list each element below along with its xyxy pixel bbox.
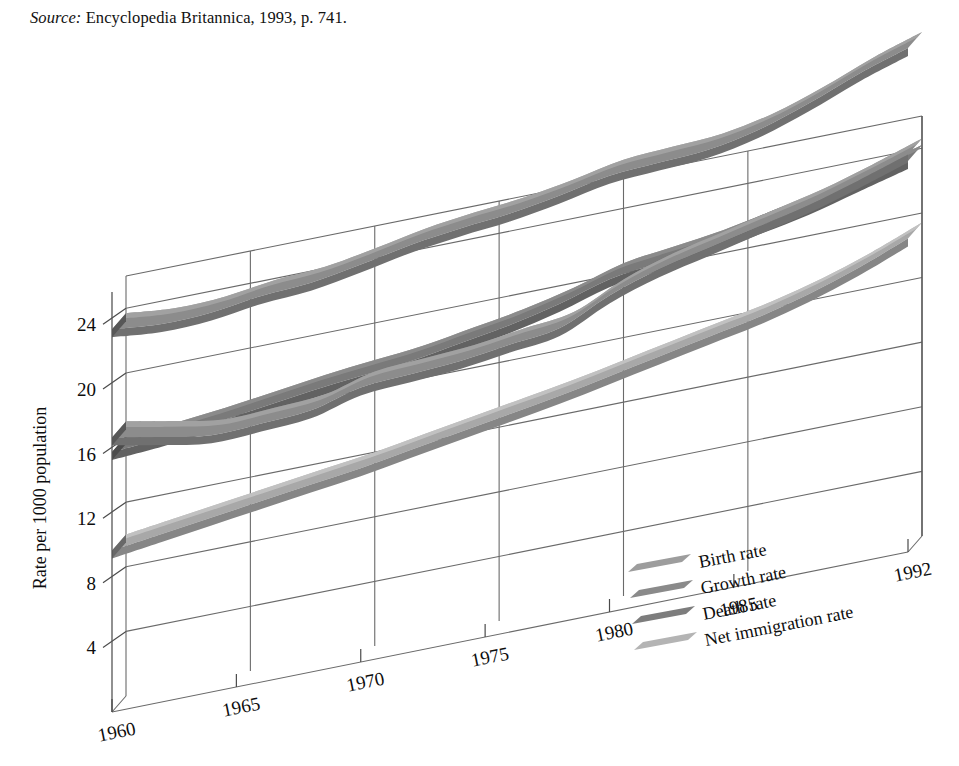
y-tick xyxy=(103,631,126,647)
legend-item: Birth rate xyxy=(628,539,768,572)
x-tick-label: 1980 xyxy=(594,618,635,646)
y-tick-label: 12 xyxy=(77,508,96,529)
x-tick-label: 1992 xyxy=(892,558,933,586)
data-ribbons xyxy=(112,32,922,558)
y-tick-label: 20 xyxy=(77,379,96,400)
y-axis-title: Rate per 1000 population xyxy=(30,407,50,589)
gridline-horizontal xyxy=(126,116,922,276)
x-tick-label: 1975 xyxy=(469,643,510,671)
y-tick-label: 4 xyxy=(87,637,97,658)
legend-swatch xyxy=(630,580,693,598)
y-tick-label: 24 xyxy=(77,314,97,335)
legend-swatch xyxy=(632,606,695,624)
y-tick xyxy=(103,502,126,518)
legend-swatch xyxy=(634,632,697,650)
population-rates-ribbon-chart: 4812162024Rate per 1000 population196019… xyxy=(0,0,959,766)
y-tick-label: 8 xyxy=(87,573,97,594)
x-tick-label: 1970 xyxy=(345,668,386,696)
ribbon-top-face xyxy=(112,139,922,438)
ribbon-net-immigration-rate xyxy=(112,223,922,559)
legend-swatch xyxy=(628,554,691,572)
x-tick-label: 1965 xyxy=(220,693,261,721)
ribbon-highlight xyxy=(121,139,922,427)
x-tick-label: 1960 xyxy=(96,718,137,746)
ribbon-front-face xyxy=(112,48,908,337)
ribbon-highlight xyxy=(121,223,922,540)
ribbon-highlight xyxy=(121,32,922,319)
ribbon-top-face xyxy=(112,32,922,329)
floor-right-edge xyxy=(908,536,922,552)
y-tick-label: 16 xyxy=(77,444,96,465)
y-tick xyxy=(103,373,126,389)
y-tick xyxy=(103,567,126,583)
gridline-horizontal xyxy=(126,148,922,308)
